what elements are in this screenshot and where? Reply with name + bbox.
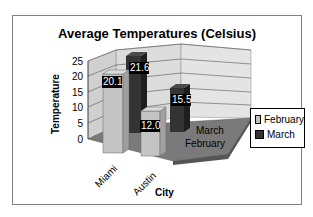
x-label-miami: Miami	[93, 163, 120, 190]
y-axis: 0 5 10 15 20 25	[72, 56, 88, 145]
svg-text:0: 0	[77, 134, 83, 145]
back-wall-right	[181, 44, 251, 118]
svg-text:15: 15	[72, 87, 84, 98]
bar-austin-march	[170, 84, 190, 132]
label-miami-march: 21.6	[130, 62, 150, 73]
legend-label-march: March	[267, 129, 295, 140]
x-label-austin: Austin	[131, 170, 158, 197]
svg-text:10: 10	[72, 102, 84, 113]
legend-swatch-march	[255, 130, 264, 139]
label-miami-february: 20.1	[103, 76, 123, 87]
y-axis-title: Temperature	[50, 74, 61, 134]
legend-item-february: February	[255, 112, 304, 127]
legend-label-february: February	[264, 114, 304, 125]
depth-label-february: February	[185, 138, 225, 149]
label-austin-february: 12.0	[141, 120, 161, 131]
svg-text:20: 20	[72, 71, 84, 82]
legend: February March	[250, 108, 305, 148]
x-axis: Miami Austin	[93, 163, 158, 198]
x-axis-title: City	[155, 187, 174, 198]
svg-text:25: 25	[72, 56, 84, 67]
svg-text:5: 5	[77, 118, 83, 129]
legend-item-march: March	[255, 127, 304, 142]
legend-swatch-february	[255, 115, 261, 124]
depth-label-march: March	[196, 125, 224, 136]
chart-area: Average Temperatures (Celsius)	[12, 15, 302, 205]
label-austin-march: 15.5	[172, 94, 192, 105]
